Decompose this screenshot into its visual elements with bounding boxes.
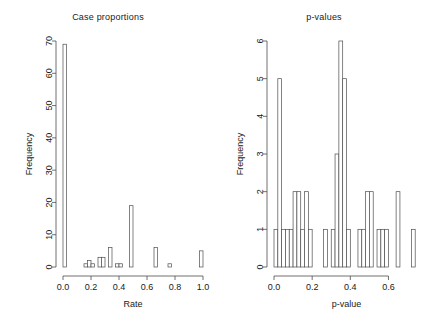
- x-tick-label: 0.4: [113, 282, 126, 292]
- x-tick-label: 0.0: [57, 282, 70, 292]
- histogram-bar: [278, 79, 282, 267]
- histogram-bar: [396, 192, 400, 267]
- histogram-bar: [308, 229, 312, 267]
- y-tick-label: 60: [44, 68, 54, 78]
- y-tick-label: 6: [255, 38, 265, 43]
- histogram-bar: [154, 248, 158, 267]
- y-axis-label: Frequency: [24, 132, 34, 175]
- x-tick-label: 0.2: [85, 282, 98, 292]
- y-tick-label: 20: [44, 197, 54, 207]
- histogram-bar: [324, 229, 328, 267]
- histogram-bar: [168, 264, 172, 267]
- y-tick-label: 2: [255, 189, 265, 194]
- x-tick-label: 0.6: [382, 282, 395, 292]
- histogram-bar: [377, 229, 381, 267]
- histogram-bar: [293, 192, 297, 267]
- histogram-bar: [109, 248, 113, 267]
- histogram-bar: [91, 264, 95, 267]
- histogram-bar: [282, 229, 286, 267]
- y-tick-label: 50: [44, 101, 54, 111]
- x-tick-label: 1.0: [197, 282, 210, 292]
- histogram-bar: [305, 192, 309, 267]
- histogram-bar: [119, 264, 123, 267]
- panel-case-proportions: Case proportions 0102030405060700.00.20.…: [0, 0, 216, 332]
- histogram-bar: [88, 261, 92, 267]
- x-tick-label: 0.2: [306, 282, 319, 292]
- histogram-bar: [63, 44, 67, 267]
- histogram-bar: [385, 229, 389, 267]
- histogram-bar: [297, 192, 301, 267]
- histogram-p-values: 01234560.00.20.40.6p-valueFrequency: [216, 0, 432, 332]
- y-axis-label: Frequency: [235, 132, 245, 175]
- histogram-bar: [366, 192, 370, 267]
- y-tick-label: 0: [44, 264, 54, 269]
- histogram-bar: [301, 229, 305, 267]
- y-tick-label: 4: [255, 114, 265, 119]
- x-axis: 0.00.20.40.6: [268, 276, 395, 292]
- histogram-bar: [274, 229, 278, 267]
- histogram-bar: [130, 206, 134, 267]
- y-tick-label: 5: [255, 76, 265, 81]
- histogram-bar: [289, 229, 293, 267]
- x-tick-label: 0.6: [141, 282, 154, 292]
- histogram-bar: [84, 264, 88, 267]
- x-axis-label: p-value: [332, 299, 362, 309]
- y-tick-label: 10: [44, 230, 54, 240]
- histogram-bar: [362, 229, 366, 267]
- y-tick-label: 0: [255, 264, 265, 269]
- x-tick-label: 0.0: [268, 282, 281, 292]
- histogram-bar: [411, 229, 415, 267]
- y-tick-label: 40: [44, 133, 54, 143]
- x-tick-label: 0.8: [169, 282, 182, 292]
- x-tick-label: 0.4: [344, 282, 357, 292]
- y-axis: 010203040506070: [44, 36, 56, 270]
- bars-group: [274, 41, 415, 267]
- histogram-bar: [200, 251, 204, 267]
- histogram-bar: [331, 229, 335, 267]
- histogram-bar: [285, 229, 289, 267]
- histogram-bar: [347, 229, 351, 267]
- histogram-bar: [358, 229, 362, 267]
- bars-group: [63, 44, 203, 267]
- y-tick-label: 70: [44, 36, 54, 46]
- y-tick-label: 1: [255, 227, 265, 232]
- y-tick-label: 3: [255, 151, 265, 156]
- figure-root: Case proportions 0102030405060700.00.20.…: [0, 0, 432, 332]
- y-tick-label: 30: [44, 165, 54, 175]
- histogram-case-proportions: 0102030405060700.00.20.40.60.81.0RateFre…: [0, 0, 216, 332]
- x-axis: 0.00.20.40.60.81.0: [57, 276, 210, 292]
- x-axis-label: Rate: [123, 299, 142, 309]
- histogram-bar: [116, 264, 120, 267]
- y-axis: 0123456: [255, 38, 267, 269]
- histogram-bar: [381, 229, 385, 267]
- histogram-bar: [98, 257, 102, 267]
- histogram-bar: [339, 41, 343, 267]
- panel-p-values: p-values 01234560.00.20.40.6p-valueFrequ…: [216, 0, 432, 332]
- histogram-bar: [102, 257, 106, 267]
- histogram-bar: [343, 79, 347, 267]
- histogram-bar: [335, 154, 339, 267]
- histogram-bar: [369, 192, 373, 267]
